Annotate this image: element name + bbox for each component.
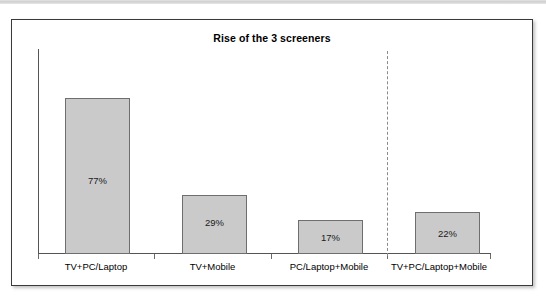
y-axis-line [38, 49, 39, 254]
chart-figure-frame: Rise of the 3 screeners 77% 29% 17% 22% … [11, 19, 533, 286]
plot-area: 77% 29% 17% 22% TV+PC/Laptop TV+Mobile P… [12, 20, 532, 285]
bar-pc-laptop-mobile: 17% [298, 220, 363, 254]
x-axis-label-tv-pc-laptop-mobile: TV+PC/Laptop+Mobile [384, 261, 494, 272]
x-axis-label-tv-mobile: TV+Mobile [154, 261, 271, 272]
x-axis-label-pc-laptop-mobile: PC/Laptop+Mobile [271, 261, 387, 272]
x-axis-tick-0 [38, 254, 39, 259]
bar-tv-pc-laptop-mobile: 22% [415, 212, 480, 254]
bar-value-label: 29% [183, 217, 246, 228]
x-axis-tick-4 [490, 254, 491, 259]
bar-tv-pc-laptop: 77% [65, 98, 130, 254]
x-axis-tick-1 [154, 254, 155, 259]
bar-value-label: 17% [299, 232, 362, 243]
bar-value-label: 77% [66, 175, 129, 186]
bar-value-label: 22% [416, 228, 479, 239]
x-axis-tick-2 [271, 254, 272, 259]
bar-tv-mobile: 29% [182, 195, 247, 254]
group-divider-dashed-line [387, 51, 388, 256]
page-top-band [0, 0, 546, 4]
x-axis-label-tv-pc-laptop: TV+PC/Laptop [38, 261, 154, 272]
